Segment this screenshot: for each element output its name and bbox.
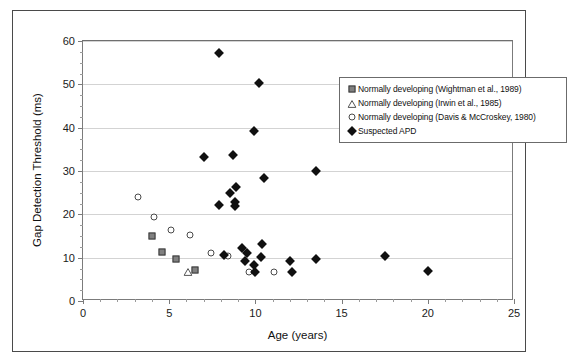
x-tick-minor bbox=[135, 299, 136, 302]
x-tick-minor bbox=[290, 299, 291, 302]
plot-area: 0102030405060 0510152025 Normally develo… bbox=[82, 40, 513, 300]
y-tick bbox=[78, 41, 83, 42]
legend-item: Normally developing (Wightman et al., 19… bbox=[345, 82, 561, 96]
gridline bbox=[83, 258, 512, 259]
y-tick-minor bbox=[80, 63, 83, 64]
x-tick bbox=[169, 299, 170, 304]
x-tick-minor bbox=[497, 299, 498, 302]
x-tick-minor bbox=[152, 299, 153, 302]
y-tick-minor bbox=[80, 95, 83, 96]
y-tick-minor bbox=[80, 247, 83, 248]
x-tick-minor bbox=[445, 299, 446, 302]
y-tick-minor bbox=[80, 236, 83, 237]
y-tick bbox=[78, 171, 83, 172]
x-tick-minor bbox=[100, 299, 101, 302]
x-tick-label: 0 bbox=[80, 307, 86, 319]
y-tick-label: 10 bbox=[63, 252, 75, 264]
y-tick-minor bbox=[80, 182, 83, 183]
open-triangle-icon bbox=[345, 97, 358, 110]
x-tick-label: 20 bbox=[422, 307, 434, 319]
data-point bbox=[271, 268, 278, 275]
x-tick-minor bbox=[307, 299, 308, 302]
legend-label: Normally developing (Wightman et al., 19… bbox=[358, 84, 521, 94]
x-tick bbox=[514, 299, 515, 304]
x-tick-minor bbox=[204, 299, 205, 302]
y-tick bbox=[78, 214, 83, 215]
x-tick-minor bbox=[462, 299, 463, 302]
open-circle-icon bbox=[345, 111, 358, 124]
x-tick-minor bbox=[238, 299, 239, 302]
y-tick-minor bbox=[80, 52, 83, 53]
x-tick bbox=[428, 299, 429, 304]
y-tick-minor bbox=[80, 117, 83, 118]
gridline bbox=[83, 41, 512, 42]
y-tick-minor bbox=[80, 106, 83, 107]
y-tick bbox=[78, 258, 83, 259]
x-tick-minor bbox=[393, 299, 394, 302]
data-point bbox=[186, 232, 193, 239]
x-tick-minor bbox=[480, 299, 481, 302]
y-tick-label: 20 bbox=[63, 208, 75, 220]
legend-item: Normally developing (Irwin et al., 1985) bbox=[345, 96, 561, 110]
gridline bbox=[83, 214, 512, 215]
legend-label: Normally developing (Davis & McCroskey, … bbox=[358, 112, 536, 122]
x-tick-minor bbox=[186, 299, 187, 302]
x-tick-minor bbox=[411, 299, 412, 302]
legend-label: Normally developing (Irwin et al., 1985) bbox=[358, 98, 501, 108]
data-point bbox=[207, 250, 214, 257]
y-tick-minor bbox=[80, 74, 83, 75]
y-tick-label: 40 bbox=[63, 122, 75, 134]
x-axis-title: Age (years) bbox=[82, 329, 513, 341]
y-tick-label: 50 bbox=[63, 78, 75, 90]
data-point bbox=[148, 233, 155, 240]
y-tick-minor bbox=[80, 139, 83, 140]
x-tick-label: 5 bbox=[166, 307, 172, 319]
y-tick-minor bbox=[80, 149, 83, 150]
x-tick-minor bbox=[221, 299, 222, 302]
x-tick-minor bbox=[117, 299, 118, 302]
x-tick bbox=[255, 299, 256, 304]
x-tick-minor bbox=[359, 299, 360, 302]
data-point bbox=[150, 214, 157, 221]
y-tick-minor bbox=[80, 269, 83, 270]
x-tick-minor bbox=[376, 299, 377, 302]
y-tick-label: 30 bbox=[63, 165, 75, 177]
x-tick bbox=[83, 299, 84, 304]
y-tick-minor bbox=[80, 279, 83, 280]
y-tick-minor bbox=[80, 290, 83, 291]
data-point bbox=[159, 249, 166, 256]
y-tick-label: 0 bbox=[69, 295, 75, 307]
gridline bbox=[83, 171, 512, 172]
data-point bbox=[173, 255, 180, 262]
data-point bbox=[167, 227, 174, 234]
x-tick-label: 25 bbox=[508, 307, 520, 319]
y-tick-minor bbox=[80, 193, 83, 194]
x-tick-label: 15 bbox=[335, 307, 347, 319]
x-tick bbox=[342, 299, 343, 304]
legend-item: Suspected APD bbox=[345, 124, 561, 138]
filled-diamond-icon bbox=[345, 125, 358, 138]
y-tick-label: 60 bbox=[63, 35, 75, 47]
legend-label: Suspected APD bbox=[358, 126, 416, 136]
y-tick bbox=[78, 128, 83, 129]
data-point bbox=[184, 262, 193, 280]
x-tick-minor bbox=[273, 299, 274, 302]
y-tick bbox=[78, 84, 83, 85]
x-tick-minor bbox=[324, 299, 325, 302]
y-tick-minor bbox=[80, 204, 83, 205]
y-axis-title: Gap Detection Threshold (ms) bbox=[28, 40, 46, 300]
y-tick-minor bbox=[80, 225, 83, 226]
chart-legend: Normally developing (Wightman et al., 19… bbox=[339, 77, 567, 143]
x-tick-label: 10 bbox=[249, 307, 261, 319]
y-tick-minor bbox=[80, 160, 83, 161]
data-point bbox=[135, 194, 142, 201]
figure-border: Gap Detection Threshold (ms) Age (years)… bbox=[12, 10, 526, 352]
legend-item: Normally developing (Davis & McCroskey, … bbox=[345, 110, 561, 124]
